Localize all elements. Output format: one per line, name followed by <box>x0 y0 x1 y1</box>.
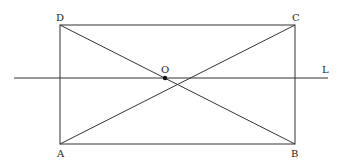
label-b: B <box>291 148 298 159</box>
label-c: C <box>292 12 300 23</box>
label-a: A <box>56 148 65 159</box>
geometry-diagram: D C A B O L <box>0 0 342 167</box>
label-o: O <box>161 64 169 75</box>
label-d: D <box>56 12 64 23</box>
label-l: L <box>322 64 329 75</box>
point-o-dot <box>163 76 167 80</box>
